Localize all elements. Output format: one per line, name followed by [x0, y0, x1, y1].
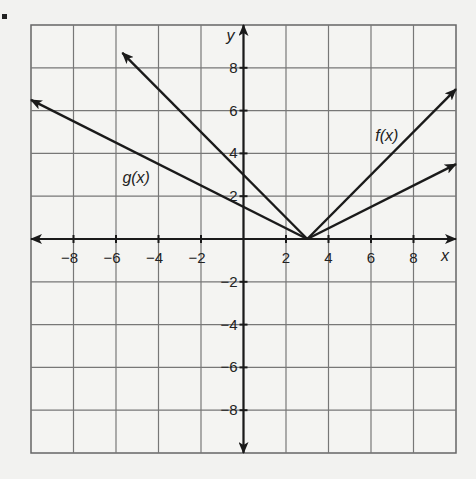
y-tick-label: 6	[229, 102, 237, 119]
g-label: g(x)	[122, 169, 150, 186]
x-tick-label: 4	[324, 249, 332, 266]
x-tick-label: −6	[103, 249, 120, 266]
f-label: f(x)	[375, 127, 398, 144]
x-tick-label: −2	[188, 249, 205, 266]
x-tick-label: −4	[146, 249, 163, 266]
y-tick-label: −4	[220, 316, 237, 333]
y-tick-label: −8	[220, 401, 237, 418]
coordinate-plane: −8−6−4−224688642−2−4−6−8xyf(x)g(x)	[0, 0, 476, 479]
y-tick-label: 8	[229, 59, 237, 76]
x-tick-label: 6	[367, 249, 375, 266]
x-tick-label: 8	[409, 249, 417, 266]
y-tick-label: 4	[229, 144, 237, 161]
x-tick-label: 2	[282, 249, 290, 266]
y-axis-label: y	[226, 27, 236, 44]
x-tick-label: −8	[61, 249, 78, 266]
y-tick-label: −6	[220, 358, 237, 375]
y-tick-label: −2	[220, 273, 237, 290]
x-axis-label: x	[440, 247, 450, 264]
